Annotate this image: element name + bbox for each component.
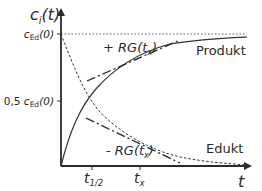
y-tick-label-half: 0,5 cEd(0) bbox=[4, 95, 54, 109]
x-tick-label-tx: tx bbox=[134, 170, 146, 188]
y-axis-label: ci(t) bbox=[30, 5, 60, 26]
reaction-kinetics-diagram: ci(t) cEd(0) 0,5 cEd(0) t1/2 tx t Produk… bbox=[0, 0, 262, 191]
product-label: Produkt bbox=[196, 43, 246, 58]
y-tick-label-initial: cEd(0) bbox=[24, 28, 54, 42]
x-tick-label-half-life: t1/2 bbox=[84, 170, 103, 188]
x-axis-label: t bbox=[238, 172, 245, 191]
educt-label: Edukt bbox=[206, 141, 243, 156]
tangent-plus-label: + RG(tx) bbox=[103, 40, 157, 57]
